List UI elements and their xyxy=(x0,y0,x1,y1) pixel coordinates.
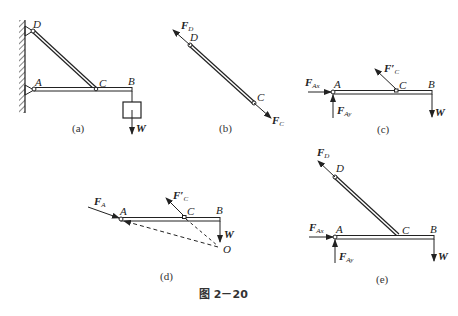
beam-ab xyxy=(121,218,220,222)
subfigure-c: FAx FAy F′C A C B W (c) xyxy=(304,62,446,136)
label-b: B xyxy=(428,78,435,90)
label-w: W xyxy=(435,106,446,118)
caption-c: (c) xyxy=(377,123,390,136)
label-w: W xyxy=(136,122,147,134)
label-a: A xyxy=(119,205,127,217)
label-d: D xyxy=(335,162,344,174)
wall-hatch xyxy=(19,20,25,113)
subfigure-a: D A C B W (a) xyxy=(19,18,147,135)
label-c: C xyxy=(402,224,410,236)
label-fay: FAy xyxy=(338,250,354,264)
label-fax: FAx xyxy=(308,221,325,235)
subfigure-e: FD D FAx FAy A C B W (e) xyxy=(308,146,449,286)
beam-ab xyxy=(335,236,434,240)
arrow-fc xyxy=(254,103,271,118)
label-c: C xyxy=(187,205,195,217)
label-b: B xyxy=(216,204,223,216)
label-a: A xyxy=(34,76,42,88)
caption-d: (d) xyxy=(160,270,173,283)
beam-ab xyxy=(333,91,432,95)
label-d: D xyxy=(189,31,198,43)
caption-e: (e) xyxy=(376,273,389,286)
figure-title: 图 2－20 xyxy=(199,288,248,301)
label-w: W xyxy=(438,250,449,262)
dashed-line-co xyxy=(186,219,218,246)
label-w: W xyxy=(224,228,235,240)
label-fd: FD xyxy=(316,146,329,160)
label-fc-prime: F′C xyxy=(383,62,399,76)
arrow-fd xyxy=(318,161,335,177)
label-b: B xyxy=(430,223,437,235)
caption-b: (b) xyxy=(219,122,232,135)
label-c: C xyxy=(257,91,265,103)
label-o: O xyxy=(223,243,231,255)
beam-ab xyxy=(34,88,132,92)
label-c: C xyxy=(99,77,107,89)
subfigure-b: FD D C FC (b) xyxy=(173,19,284,135)
caption-a: (a) xyxy=(72,122,85,135)
subfigure-d: FA F′C A C B W O (d) xyxy=(88,189,235,283)
label-fc: FC xyxy=(271,114,284,128)
label-fay: FAy xyxy=(336,104,352,118)
label-a: A xyxy=(333,78,341,90)
label-fax: FAx xyxy=(304,76,321,90)
label-a: A xyxy=(335,223,343,235)
diagram-svg: D A C B W (a) FD D C FC (b) FAx FAy F′C … xyxy=(0,0,458,316)
dashed-line-oa xyxy=(124,221,218,247)
label-b: B xyxy=(128,75,135,87)
label-c: C xyxy=(399,79,407,91)
label-fc-prime: F′C xyxy=(172,189,188,203)
label-d: D xyxy=(32,18,41,30)
figure-2-20: D A C B W (a) FD D C FC (b) FAx FAy F′C … xyxy=(0,0,458,316)
label-fa: FA xyxy=(93,195,106,209)
